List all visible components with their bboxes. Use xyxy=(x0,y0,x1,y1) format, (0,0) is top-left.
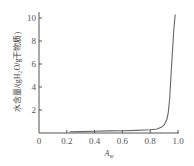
y-ticks: 246810 xyxy=(27,13,42,115)
x-tick-label: 1.0 xyxy=(172,136,184,146)
y-tick-label: 4 xyxy=(32,82,37,92)
x-tick-label: 0.2 xyxy=(61,136,72,146)
x-tick-label: 0.8 xyxy=(145,136,157,146)
y-tick-label: 6 xyxy=(32,59,37,69)
plot-area: 246810 00.20.40.60.81.0 xyxy=(27,12,184,146)
x-tick-label: 0.6 xyxy=(117,136,129,146)
chart: 246810 00.20.40.60.81.0 Aw 水含量/(gH₂O/g干物… xyxy=(0,0,194,166)
x-axis-title: Aw xyxy=(104,149,114,159)
x-tick-label: 0.4 xyxy=(89,136,101,146)
sorption-curve xyxy=(70,15,176,132)
x-tick-label: 0 xyxy=(37,136,42,146)
y-tick-label: 8 xyxy=(32,36,37,46)
y-tick-label: 2 xyxy=(32,105,37,115)
x-ticks: 00.20.40.60.81.0 xyxy=(37,130,184,146)
y-tick-label: 10 xyxy=(27,13,37,23)
y-axis-title: 水含量/(gH₂O/g干物质) xyxy=(12,32,22,112)
